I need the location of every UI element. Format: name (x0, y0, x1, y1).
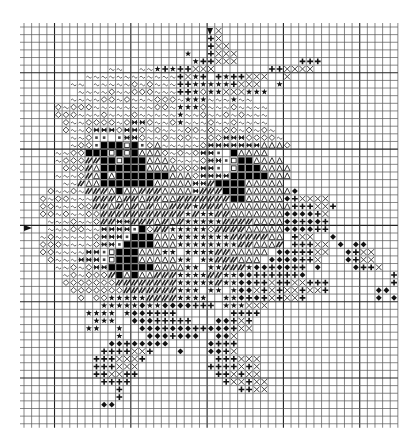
center-column-arrow-icon (207, 28, 213, 35)
cross-stitch-chart (0, 0, 419, 436)
center-row-arrow-icon (24, 225, 32, 231)
